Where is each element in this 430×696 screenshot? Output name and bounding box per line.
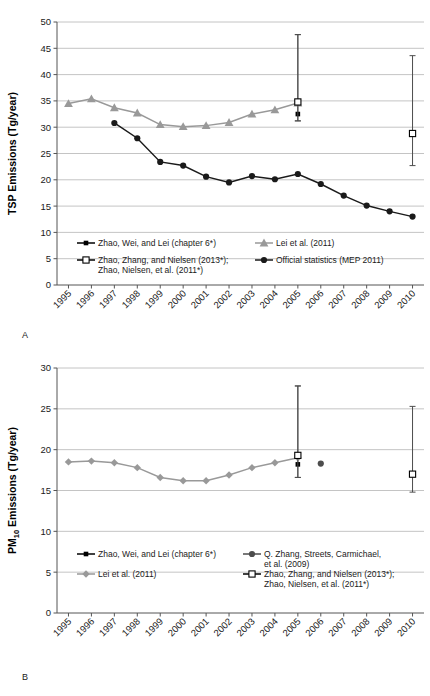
x-tick-label: 2004 bbox=[257, 616, 280, 639]
marker-filled-diamond bbox=[225, 471, 232, 478]
x-tick-label: 2002 bbox=[211, 288, 234, 311]
marker-filled-square bbox=[84, 241, 89, 246]
x-tick-label: 1995 bbox=[51, 616, 74, 639]
marker-filled-circle bbox=[272, 176, 278, 182]
legend-label-line2: Zhao, Nielsen, et al. (2011*) bbox=[264, 579, 369, 589]
marker-filled-diamond bbox=[82, 570, 89, 577]
x-tick-label: 2003 bbox=[234, 616, 257, 639]
legend-label: Zhao, Zhang, and Nielsen (2013*); bbox=[264, 569, 394, 579]
legend-label-line2: Zhao, Nielsen, et al. (2011*) bbox=[98, 265, 203, 275]
panel-label-a: A bbox=[22, 330, 28, 340]
y-tick-label: 25 bbox=[40, 403, 51, 414]
legend-label-line2: et al. (2009) bbox=[264, 559, 310, 569]
x-tick-label: 2001 bbox=[188, 616, 211, 639]
legend-label: Q. Zhang, Streets, Carmichael, bbox=[264, 549, 381, 559]
marker-open-square bbox=[295, 452, 301, 458]
x-tick-label: 2001 bbox=[188, 288, 211, 311]
x-axis-ticks: 1995199619971998199920002001200220032004… bbox=[51, 285, 418, 310]
y-tick-label: 20 bbox=[40, 174, 51, 185]
series-3 bbox=[111, 120, 415, 220]
x-tick-label: 2005 bbox=[280, 288, 303, 311]
x-tick-label: 2009 bbox=[372, 616, 395, 639]
marker-filled-diamond bbox=[179, 477, 186, 484]
marker-filled-circle bbox=[261, 257, 267, 263]
x-tick-label: 2000 bbox=[165, 288, 188, 311]
marker-filled-diamond bbox=[271, 459, 278, 466]
marker-filled-circle bbox=[111, 120, 117, 126]
x-tick-label: 1997 bbox=[97, 616, 120, 639]
marker-open-square bbox=[409, 471, 415, 477]
x-tick-label: 2007 bbox=[326, 288, 349, 311]
y-tick-label: 5 bbox=[46, 253, 51, 264]
y-tick-label: 45 bbox=[40, 43, 51, 54]
marker-filled-circle bbox=[134, 135, 140, 141]
y-tick-label: 0 bbox=[46, 279, 51, 290]
y-tick-label: 25 bbox=[40, 148, 51, 159]
marker-filled-circle bbox=[318, 181, 324, 187]
series-line bbox=[114, 123, 412, 217]
marker-filled-diamond bbox=[65, 458, 72, 465]
y-tick-label: 30 bbox=[40, 362, 51, 373]
y-tick-label: 30 bbox=[40, 122, 51, 133]
y-tick-label: 50 bbox=[40, 16, 51, 27]
legend-label: Zhao, Wei, and Lei (chapter 6*) bbox=[98, 238, 216, 248]
marker-filled-circle bbox=[226, 179, 232, 185]
x-tick-label: 1996 bbox=[74, 288, 97, 311]
y-axis-title: TSP Emissions (Tg/year) bbox=[6, 92, 18, 215]
y-tick-label: 15 bbox=[40, 201, 51, 212]
marker-filled-diamond bbox=[111, 459, 118, 466]
series-2 bbox=[318, 460, 324, 466]
legend-label: Lei et al. (2011) bbox=[98, 569, 157, 579]
marker-filled-circle bbox=[295, 171, 301, 177]
legend-label: Official statistics (MEP 2011) bbox=[276, 255, 384, 265]
y-axis-title: PM10 Emissions (Tg/year) bbox=[6, 427, 21, 554]
y-tick-label: 20 bbox=[40, 444, 51, 455]
x-tick-label: 2008 bbox=[349, 288, 372, 311]
marker-filled-diamond bbox=[157, 474, 164, 481]
x-tick-label: 2009 bbox=[372, 288, 395, 311]
marker-filled-circle bbox=[180, 162, 186, 168]
y-tick-label: 35 bbox=[40, 95, 51, 106]
y-axis-ticks: 05101520253035404550 bbox=[40, 16, 57, 290]
y-tick-label: 10 bbox=[40, 227, 51, 238]
x-tick-label: 1995 bbox=[51, 288, 74, 311]
marker-filled-diamond bbox=[134, 464, 141, 471]
legend-label: Zhao, Wei, and Lei (chapter 6*) bbox=[98, 549, 216, 559]
marker-filled-diamond bbox=[248, 464, 255, 471]
marker-filled-circle bbox=[318, 460, 324, 466]
marker-filled-triangle bbox=[156, 120, 165, 128]
marker-filled-circle bbox=[203, 174, 209, 180]
marker-filled-circle bbox=[409, 214, 415, 220]
x-tick-label: 1997 bbox=[97, 288, 120, 311]
x-tick-label: 2006 bbox=[303, 288, 326, 311]
x-tick-label: 2005 bbox=[280, 616, 303, 639]
marker-open-square bbox=[409, 130, 415, 136]
chart-panel-b: 0510152025301995199619971998199920002001… bbox=[0, 350, 430, 696]
series-2 bbox=[295, 35, 416, 166]
marker-filled-diamond bbox=[202, 477, 209, 484]
x-tick-label: 2010 bbox=[395, 616, 418, 639]
y-tick-label: 5 bbox=[46, 567, 51, 578]
x-tick-label: 2008 bbox=[349, 616, 372, 639]
x-tick-label: 2002 bbox=[211, 616, 234, 639]
marker-filled-circle bbox=[249, 551, 255, 557]
marker-filled-circle bbox=[341, 192, 347, 198]
y-tick-label: 0 bbox=[46, 607, 51, 618]
marker-filled-square bbox=[84, 552, 89, 557]
series-1 bbox=[65, 454, 302, 484]
y-axis-ticks: 051015202530 bbox=[40, 362, 57, 618]
x-tick-label: 2006 bbox=[303, 616, 326, 639]
pm10-emissions-chart: 0510152025301995199619971998199920002001… bbox=[0, 350, 430, 696]
chart-panel-a: 0510152025303540455019951996199719981999… bbox=[0, 0, 430, 350]
series-1 bbox=[64, 94, 302, 130]
x-tick-label: 1996 bbox=[74, 616, 97, 639]
legend-label: Zhao, Zhang, and Nielsen (2013*); bbox=[98, 255, 228, 265]
legend: Zhao, Wei, and Lei (chapter 6*)Lei et al… bbox=[77, 238, 384, 275]
x-tick-label: 1999 bbox=[142, 616, 165, 639]
y-tick-label: 10 bbox=[40, 526, 51, 537]
x-tick-label: 1999 bbox=[142, 288, 165, 311]
y-tick-label: 40 bbox=[40, 69, 51, 80]
x-tick-label: 2003 bbox=[234, 288, 257, 311]
marker-open-square bbox=[249, 571, 255, 577]
series-3 bbox=[295, 386, 416, 492]
